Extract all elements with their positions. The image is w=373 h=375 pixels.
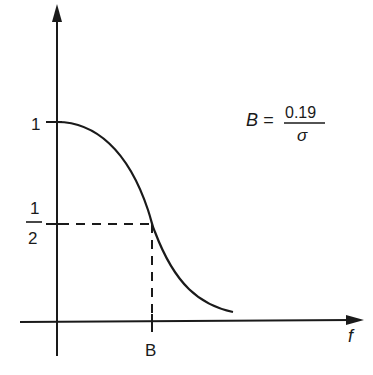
response-curve	[57, 122, 233, 312]
y-axis	[52, 4, 62, 356]
x-axis-label-f: f	[348, 326, 355, 346]
x-axis	[20, 315, 364, 325]
formula-denominator: σ	[297, 126, 308, 145]
y-label-half-denominator: 2	[28, 229, 37, 248]
bandwidth-formula: B = 0.19 σ	[246, 104, 325, 145]
y-axis-arrow-icon	[52, 4, 62, 22]
formula-lhs: B =	[246, 110, 274, 130]
formula-numerator: 0.19	[285, 104, 316, 121]
y-label-one: 1	[31, 115, 40, 134]
x-label-b: B	[145, 341, 156, 360]
response-curve-diagram: 1 1 2 B f B = 0.19 σ	[0, 0, 373, 375]
y-label-half-numerator: 1	[30, 199, 39, 218]
x-axis-arrow-icon	[346, 315, 364, 325]
